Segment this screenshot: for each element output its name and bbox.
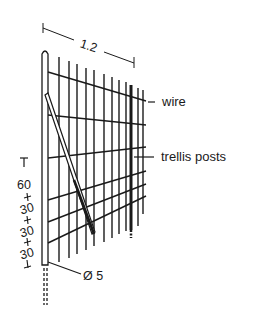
wire-label: wire (161, 94, 186, 109)
dim-spacing-3: 30 (18, 245, 35, 262)
dim-spacing-2: 30 (18, 223, 35, 240)
width-dimension: 1.2 (43, 23, 134, 68)
height-dimensions: 60 30 30 30 (17, 158, 35, 268)
dim-top-spacing: 60 (17, 178, 31, 192)
trellis-posts-label: trellis posts (161, 149, 227, 164)
left-post (42, 51, 48, 305)
trellis-posts-callout: trellis posts (134, 149, 227, 164)
wire-callout: wire (148, 94, 186, 109)
trellis-diagram: 1.2 wire (0, 0, 261, 314)
width-label: 1.2 (78, 37, 99, 56)
post-diameter-label: Ø 5 (83, 269, 103, 283)
post-diameter-callout: Ø 5 (48, 262, 103, 283)
dim-spacing-1: 30 (18, 200, 35, 217)
